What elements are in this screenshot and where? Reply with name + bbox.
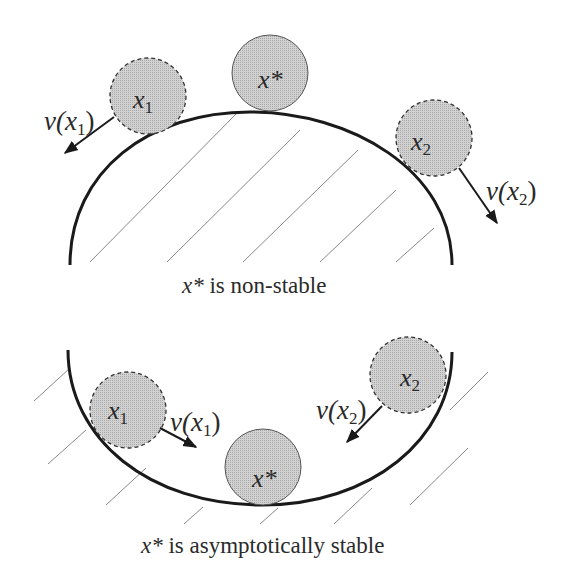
bottom-ball-x-star: x* [225, 429, 301, 505]
top-ball-x2: x2 [396, 100, 472, 176]
top-ball-x1: x1 [110, 58, 186, 134]
bottom-panel-asymptotically-stable: x1 x* x2 v(x1) v(x2) x* is asymptoticall… [34, 337, 488, 558]
top-ball-x-star-label: x* [257, 65, 283, 94]
bottom-velocity-label-x2: v(x2) [316, 395, 366, 428]
top-hill-curve [70, 112, 452, 265]
top-panel-non-stable: x1 x* x2 v(x1) v(x2) x* is non-stable [44, 35, 536, 298]
bottom-caption: x* is asymptotically stable [140, 533, 384, 558]
top-velocity-label-x2: v(x2) [486, 176, 536, 209]
top-hatch [90, 112, 434, 262]
top-caption: x* is non-stable [181, 273, 326, 298]
bottom-velocity-label-x1: v(x1) [170, 407, 220, 440]
stability-diagram: x1 x* x2 v(x1) v(x2) x* is non-stable [0, 0, 569, 587]
bottom-ball-x-star-label: x* [251, 464, 277, 493]
top-velocity-label-x1: v(x1) [44, 106, 94, 139]
bottom-ball-x1: x1 [90, 372, 166, 448]
top-ball-x-star: x* [232, 35, 308, 111]
bottom-ball-x2: x2 [370, 337, 446, 413]
